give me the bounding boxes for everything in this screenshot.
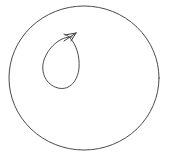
figure-canvas [0,0,169,159]
diagram-background [0,0,169,159]
loop-in-disk-diagram [0,0,169,159]
